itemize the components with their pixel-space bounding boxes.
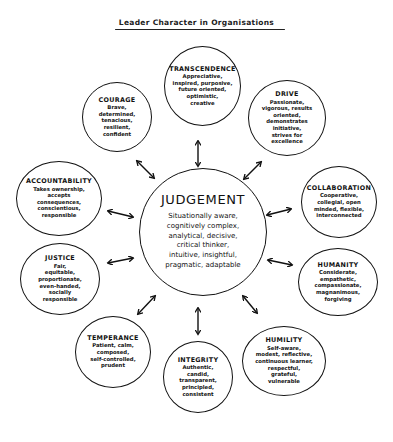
node-collaboration-description: Cooperative, collegial, open minded, fle… [308, 192, 370, 218]
node-courage: COURAGE Brave, determined, tenacious, re… [82, 82, 152, 152]
node-humanity-label: HUMANITY [318, 262, 359, 269]
node-drive: DRIVE Passionate, vigorous, results orie… [248, 80, 326, 156]
node-transcendence-description: Appreciative, inspired, purposive, futur… [167, 73, 239, 106]
node-courage-label: COURAGE [99, 97, 136, 104]
node-integrity-label: INTEGRITY [178, 357, 219, 364]
node-drive-description: Passionate, vigorous, results oriented, … [256, 99, 318, 145]
node-transcendence-label: TRANSCENDENCE [169, 66, 236, 73]
node-accountability: ACCOUNTABILITY Takes ownership, accepts … [16, 161, 102, 236]
node-drive-label: DRIVE [275, 91, 298, 98]
node-temperance-description: Patient, calm, composed, self-controlled… [84, 342, 141, 368]
node-judgement: JUDGEMENT Situationally aware, cognitive… [139, 168, 267, 296]
arrow-humility [243, 296, 257, 313]
node-temperance-label: TEMPERANCE [87, 335, 138, 342]
arrow-temperance [138, 296, 155, 314]
node-transcendence: TRANSCENDENCE Appreciative, inspired, pu… [164, 46, 241, 126]
node-justice-label: JUSTICE [45, 255, 75, 262]
node-justice-description: Fair, equitable, proportionate, even-han… [32, 263, 88, 303]
node-temperance: TEMPERANCE Patient, calm, composed, self… [75, 316, 151, 388]
node-humanity-description: Considerate, empathetic, compassionate, … [309, 269, 368, 302]
node-humility-description: Self-aware, modest, reflective, continuo… [249, 345, 319, 385]
arrow-drive [244, 162, 261, 179]
node-justice: JUSTICE Fair, equitable, proportionate, … [20, 243, 100, 315]
node-integrity-description: Authentic, candid, transparent, principl… [173, 364, 223, 397]
node-humility: HUMILITY Self-aware, modest, reflective,… [242, 326, 326, 396]
node-accountability-description: Takes ownership, accepts consequences, c… [27, 186, 91, 219]
node-judgement-label: JUDGEMENT [161, 193, 245, 208]
arrow-accountability [108, 211, 133, 217]
node-courage-description: Brave, determined, tenacious, resilient,… [93, 104, 142, 137]
node-judgement-description: Situationally aware, cognitively complex… [161, 212, 244, 271]
node-humanity: HUMANITY Considerate, empathetic, compas… [298, 248, 378, 316]
arrow-humanity [268, 260, 292, 265]
node-humility-label: HUMILITY [265, 337, 302, 344]
node-accountability-label: ACCOUNTABILITY [26, 178, 92, 185]
arrow-collaboration [267, 209, 291, 215]
node-collaboration-label: COLLABORATION [307, 185, 371, 192]
node-collaboration: COLLABORATION Cooperative, collegial, op… [301, 166, 377, 238]
arrow-justice [108, 258, 133, 263]
node-integrity: INTEGRITY Authentic, candid, transparent… [163, 341, 233, 413]
arrow-courage [137, 161, 154, 178]
